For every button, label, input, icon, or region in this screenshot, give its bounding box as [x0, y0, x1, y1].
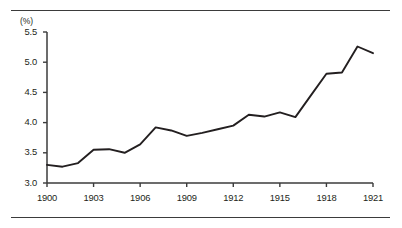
x-axis-tick-label: 1921	[353, 192, 393, 203]
y-axis-tick-label: 5.5	[11, 26, 37, 37]
x-axis-tick-label: 1900	[27, 192, 67, 203]
x-axis-tick-label: 1909	[167, 192, 207, 203]
y-axis-tick-label: 5.0	[11, 56, 37, 67]
y-axis-tick-label: 3.0	[11, 177, 37, 188]
y-axis-tick-label: 4.0	[11, 116, 37, 127]
x-axis-tick-label: 1906	[120, 192, 160, 203]
chart-axes	[43, 32, 373, 187]
data-series-line	[47, 47, 373, 167]
figure-container: (%) 5.55.04.54.03.53.0 19001903190619091…	[0, 0, 402, 228]
x-axis-tick-label: 1903	[74, 192, 114, 203]
x-axis-tick-label: 1918	[306, 192, 346, 203]
x-axis-tick-label: 1915	[260, 192, 300, 203]
y-axis-tick-label: 4.5	[11, 86, 37, 97]
x-axis-tick-label: 1912	[213, 192, 253, 203]
y-axis-tick-label: 3.5	[11, 146, 37, 157]
